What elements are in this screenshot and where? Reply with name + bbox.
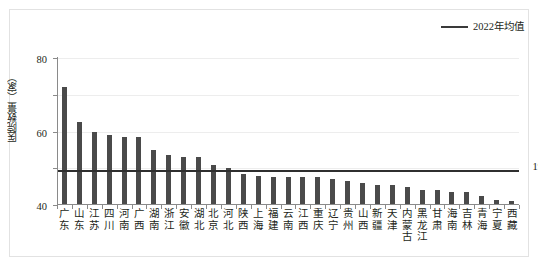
x-axis-label: 广西 bbox=[132, 208, 145, 231]
x-axis-label: 北京 bbox=[207, 208, 220, 231]
y-axis-tick-label: 60 bbox=[37, 127, 48, 138]
plot-area: 020406080 19 bbox=[57, 58, 519, 205]
y-axis-tick-label: 80 bbox=[37, 54, 48, 65]
x-axis-label: 黑龙江 bbox=[416, 208, 429, 243]
x-axis-label: 湖南 bbox=[147, 208, 160, 231]
y-axis-tick-label: 40 bbox=[37, 201, 48, 212]
x-axis-label: 吉林 bbox=[460, 208, 473, 231]
x-axis-label: 西藏 bbox=[505, 208, 518, 231]
x-axis-label: 浙江 bbox=[162, 208, 175, 231]
x-axis-label: 辽宁 bbox=[326, 208, 339, 231]
x-axis-label: 山西 bbox=[356, 208, 369, 231]
x-axis-label: 江西 bbox=[296, 208, 309, 231]
x-axis-label: 宁夏 bbox=[490, 208, 503, 231]
x-axis-label: 湖北 bbox=[192, 208, 205, 231]
x-axis-label: 江苏 bbox=[88, 208, 101, 231]
x-axis-label: 海南 bbox=[445, 208, 458, 231]
bar bbox=[256, 176, 261, 205]
bar bbox=[226, 168, 231, 205]
bar bbox=[345, 181, 350, 205]
x-axis-line bbox=[57, 204, 519, 205]
bar bbox=[286, 177, 291, 205]
bar bbox=[62, 87, 67, 205]
bar bbox=[405, 187, 410, 205]
bar bbox=[435, 190, 440, 205]
x-axis-labels: 广东山东江苏四川河南广西湖南浙江安徽湖北北京河北陕西上海福建云南江西重庆辽宁贵州… bbox=[57, 208, 519, 254]
y-axis-title: 医院数量（家） bbox=[7, 72, 23, 142]
x-axis-label: 新疆 bbox=[371, 208, 384, 231]
mean-value-label: 19 bbox=[533, 161, 538, 172]
bar bbox=[315, 177, 320, 205]
bar bbox=[181, 157, 186, 205]
bar-series bbox=[57, 58, 519, 205]
bar bbox=[300, 177, 305, 205]
bar bbox=[390, 185, 395, 205]
bar bbox=[420, 190, 425, 205]
bar bbox=[360, 183, 365, 205]
bar bbox=[271, 177, 276, 205]
bar bbox=[166, 155, 171, 205]
bar bbox=[375, 185, 380, 205]
bar bbox=[77, 122, 82, 205]
x-axis-label: 安徽 bbox=[177, 208, 190, 231]
x-axis-label: 内蒙古 bbox=[401, 208, 414, 243]
x-axis-label: 陕西 bbox=[237, 208, 250, 231]
plot-inner: 020406080 19 bbox=[57, 58, 519, 205]
x-axis-label: 贵州 bbox=[341, 208, 354, 231]
mean-reference-line: 19 bbox=[57, 170, 519, 172]
x-axis-label: 河北 bbox=[222, 208, 235, 231]
x-axis-label: 山东 bbox=[73, 208, 86, 231]
y-axis-line bbox=[57, 57, 58, 205]
bar bbox=[330, 179, 335, 205]
legend-line-swatch bbox=[441, 26, 468, 28]
x-axis-label: 河南 bbox=[118, 208, 131, 231]
bar bbox=[92, 132, 97, 206]
legend-label: 2022年均值 bbox=[473, 21, 524, 33]
x-axis-label: 重庆 bbox=[311, 208, 324, 231]
bar bbox=[151, 150, 156, 205]
x-axis-label: 甘肃 bbox=[431, 208, 444, 231]
x-axis-tick bbox=[519, 205, 520, 209]
x-axis-label: 上海 bbox=[252, 208, 265, 231]
x-axis-label: 云南 bbox=[282, 208, 295, 231]
x-axis-label: 天津 bbox=[386, 208, 399, 231]
bar bbox=[196, 157, 201, 205]
figure-container: 2022年均值 医院数量（家） 020406080 19 广东山东江苏四川河南广… bbox=[0, 0, 538, 270]
x-axis-label: 青海 bbox=[475, 208, 488, 231]
x-axis-label: 四川 bbox=[103, 208, 116, 231]
legend: 2022年均值 bbox=[441, 19, 524, 35]
x-axis-label: 福建 bbox=[267, 208, 280, 231]
x-axis-label: 广东 bbox=[58, 208, 71, 231]
bar bbox=[241, 174, 246, 205]
